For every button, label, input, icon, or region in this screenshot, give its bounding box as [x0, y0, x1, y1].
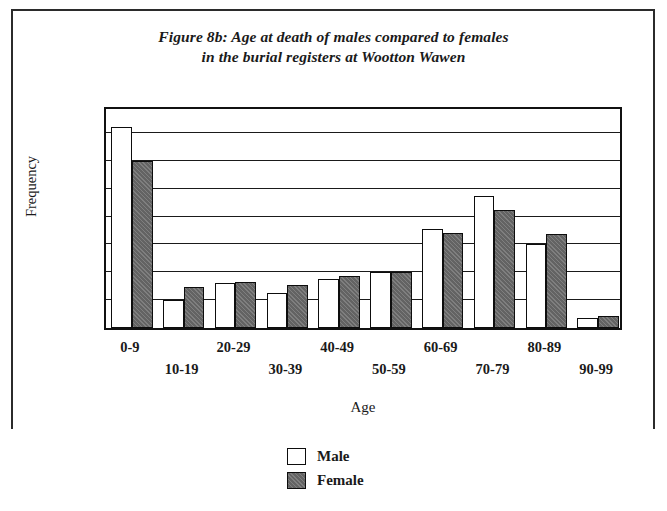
chart-title-line-1: Figure 8b: Age at death of males compare… [158, 28, 508, 45]
x-axis-tick-labels: 0-910-1920-2930-3940-4950-5960-6970-7980… [104, 330, 622, 390]
bar-group [106, 109, 158, 328]
bar-group [365, 109, 417, 328]
bar-group [520, 109, 572, 328]
legend-swatch-female-icon [287, 472, 306, 489]
legend-label-male: Male [317, 448, 349, 465]
chart-title-line-2: in the burial registers at Wootton Wawen [0, 47, 667, 67]
x-tick-label-80-89: 80-89 [527, 339, 561, 356]
bar-male-90-99 [577, 318, 598, 328]
bar-male-80-89 [526, 244, 547, 328]
bar-female-50-59 [391, 272, 412, 328]
bar-male-40-49 [318, 279, 339, 328]
x-tick-label-0-9: 0-9 [120, 339, 139, 356]
legend-label-female: Female [317, 472, 364, 489]
x-tick-label-10-19: 10-19 [165, 361, 199, 378]
plot-area [104, 107, 622, 330]
x-tick-label-30-39: 30-39 [268, 361, 302, 378]
bar-female-0-9 [132, 161, 153, 328]
bar-group [469, 109, 521, 328]
bars-layer [106, 109, 620, 328]
bar-group [210, 109, 262, 328]
bar-male-30-39 [267, 293, 288, 328]
bar-male-50-59 [370, 272, 391, 328]
bar-female-70-79 [494, 210, 515, 328]
bar-male-10-19 [163, 300, 184, 328]
legend-swatch-male-icon [287, 448, 306, 465]
chart-title: Figure 8b: Age at death of males compare… [0, 27, 667, 67]
bar-group [572, 109, 624, 328]
x-tick-label-70-79: 70-79 [476, 361, 510, 378]
bar-female-80-89 [546, 234, 567, 328]
bar-female-60-69 [443, 233, 464, 328]
legend-item-male: Male [287, 444, 487, 468]
legend-item-female: Female [287, 468, 487, 492]
x-tick-label-60-69: 60-69 [424, 339, 458, 356]
bar-group [417, 109, 469, 328]
bar-group [261, 109, 313, 328]
bar-male-60-69 [422, 229, 443, 328]
x-tick-label-20-29: 20-29 [217, 339, 251, 356]
x-axis-title: Age [104, 399, 622, 416]
bar-female-10-19 [184, 287, 205, 328]
bar-male-0-9 [111, 127, 132, 328]
x-tick-label-90-99: 90-99 [579, 361, 613, 378]
bar-male-70-79 [474, 196, 495, 328]
bar-female-90-99 [598, 316, 619, 328]
bar-female-30-39 [287, 285, 308, 328]
x-tick-label-40-49: 40-49 [320, 339, 354, 356]
x-tick-label-50-59: 50-59 [372, 361, 406, 378]
bar-group [313, 109, 365, 328]
bar-male-20-29 [215, 283, 236, 328]
bar-female-20-29 [235, 282, 256, 328]
chart-legend: Male Female [287, 444, 487, 492]
y-axis-tick-label-group: 050100150200250300350400 [0, 107, 104, 330]
bar-female-40-49 [339, 276, 360, 328]
bar-group [158, 109, 210, 328]
